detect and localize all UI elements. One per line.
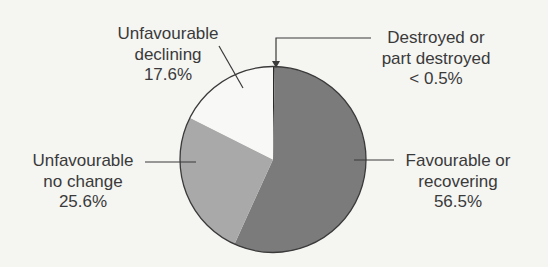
- label-destroyed: Destroyed or part destroyed < 0.5%: [382, 28, 491, 90]
- label-text: Destroyed or: [382, 28, 491, 49]
- label-text: no change: [32, 172, 133, 193]
- label-text: Unfavourable: [117, 24, 218, 45]
- label-value: 25.6%: [32, 192, 133, 213]
- label-text: Unfavourable: [32, 151, 133, 172]
- label-favourable-recovering: Favourable or recovering 56.5%: [406, 151, 511, 213]
- label-text: Favourable or: [406, 151, 511, 172]
- label-text: recovering: [406, 172, 511, 193]
- label-unfavourable-declining: Unfavourable declining 17.6%: [117, 24, 218, 86]
- label-value: < 0.5%: [382, 69, 491, 90]
- pie-slices: [180, 67, 366, 253]
- leader-line-destroyed: [276, 38, 371, 66]
- pie-chart: Unfavourable declining 17.6% Destroyed o…: [0, 0, 548, 267]
- label-value: 56.5%: [406, 192, 511, 213]
- label-unfavourable-no-change: Unfavourable no change 25.6%: [32, 151, 133, 213]
- label-value: 17.6%: [117, 65, 218, 86]
- label-text: declining: [117, 45, 218, 66]
- label-text: part destroyed: [382, 49, 491, 70]
